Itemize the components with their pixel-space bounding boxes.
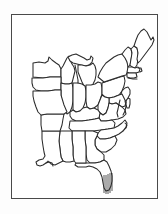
eastern-us-map: Eastern United States Outline Map xyxy=(12,15,157,198)
state-outline-minnesota xyxy=(33,57,61,78)
map-frame: Eastern United States Outline Map xyxy=(11,14,158,199)
national-outline-group xyxy=(32,29,154,191)
caption-area xyxy=(0,200,168,214)
state-outline-florida xyxy=(75,160,112,191)
state-outline-alabama xyxy=(72,131,86,163)
state-outline-arkansas xyxy=(41,114,64,131)
mississippi-delta-detail xyxy=(46,162,53,166)
state-outline-delaware xyxy=(126,98,130,108)
state-outline-maine xyxy=(134,29,154,63)
page-root: Eastern United States Outline Map xyxy=(0,0,168,214)
state-outline-iowa xyxy=(32,77,61,91)
state-outline-louisiana xyxy=(36,131,63,166)
state-outline-connecticut-rhode-island xyxy=(127,73,137,78)
